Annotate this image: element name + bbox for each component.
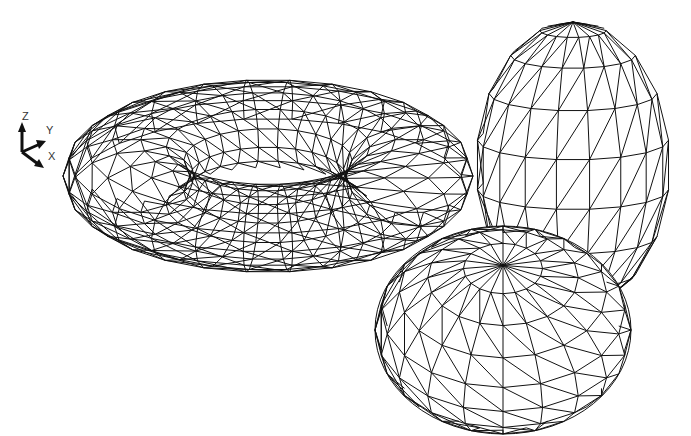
ucs-icon: Z Y X (14, 112, 64, 172)
sphere-mesh (375, 226, 631, 434)
wireframe-scene (0, 0, 691, 436)
z-axis-label: Z (22, 110, 29, 122)
y-axis-label: Y (46, 124, 53, 136)
x-axis-label: X (48, 150, 55, 162)
torus-mesh (63, 80, 473, 271)
